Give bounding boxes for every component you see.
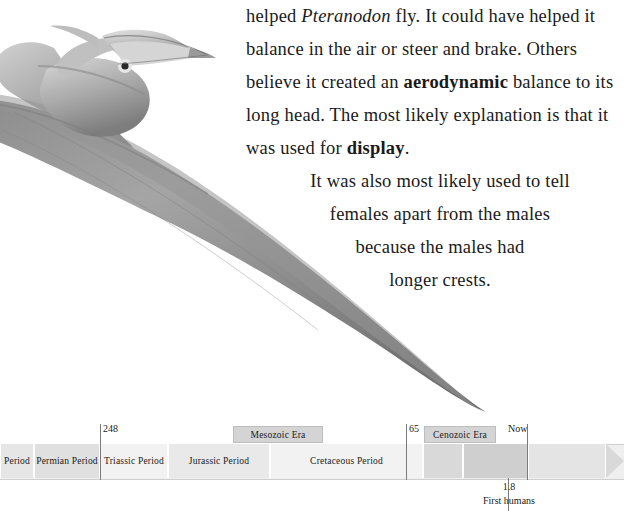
- period-cell: Period: [0, 444, 34, 478]
- period-cell: [423, 444, 463, 478]
- timeline-arrow-icon: [606, 444, 624, 478]
- paragraph-2-line-2: females apart from the males: [246, 198, 634, 231]
- bold-term-display: display: [347, 138, 405, 158]
- paragraph-2-line-4: longer crests.: [246, 264, 634, 297]
- period-cell: [463, 444, 528, 478]
- timeline-marker-label: Now: [508, 423, 527, 434]
- geologic-timeline: Period Permian Period Triassic Period Ju…: [0, 424, 637, 511]
- tick-65: [406, 424, 407, 480]
- period-cell: Permian Period: [34, 444, 100, 478]
- paragraph-2-line-3: because the males had: [246, 231, 634, 264]
- page-root: helped Pteranodon fly. It could have hel…: [0, 0, 637, 511]
- paragraph-2: It was also most likely used to tell fem…: [246, 165, 634, 297]
- body-text: helped Pteranodon fly. It could have hel…: [246, 0, 634, 297]
- timeline-marker-label: 248: [103, 423, 118, 434]
- italic-term: Pteranodon: [301, 6, 390, 26]
- annotation-value: 1.8: [478, 481, 540, 492]
- annotation-caption: First humans: [447, 495, 571, 506]
- period-cell: [528, 444, 606, 478]
- text-run: helped: [246, 6, 301, 26]
- period-cell: Cretaceous Period: [270, 444, 423, 478]
- text-run: .: [405, 138, 410, 158]
- bold-term-aerodynamic: aerodynamic: [403, 72, 508, 92]
- paragraph-1: helped Pteranodon fly. It could have hel…: [246, 0, 634, 165]
- period-cell: Jurassic Period: [168, 444, 270, 478]
- era-box-mesozoic: Mesozoic Era: [233, 426, 323, 443]
- paragraph-2-line-1: It was also most likely used to tell: [246, 165, 634, 198]
- tick-248: [100, 424, 101, 480]
- period-cell: Triassic Period: [100, 444, 168, 478]
- era-box-cenozoic: Cenozoic Era: [424, 426, 496, 443]
- timeline-marker-label: 65: [409, 423, 419, 434]
